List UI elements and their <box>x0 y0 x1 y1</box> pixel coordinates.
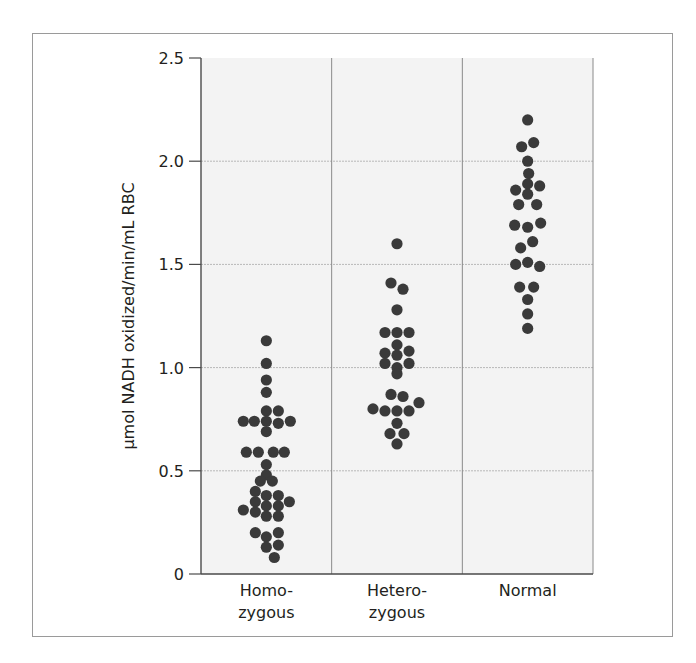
data-point <box>261 511 272 522</box>
data-point <box>367 403 378 414</box>
data-point <box>250 486 261 497</box>
data-point <box>273 500 284 511</box>
data-point <box>391 339 402 350</box>
data-point <box>261 374 272 385</box>
data-point <box>379 348 390 359</box>
data-point <box>522 257 533 268</box>
y-tick-label: 2.0 <box>159 152 184 171</box>
dot-plot-chart: 00.51.01.52.02.5 µmol NADH oxidized/min/… <box>0 0 696 663</box>
data-point <box>379 358 390 369</box>
data-point <box>284 496 295 507</box>
data-point <box>255 476 266 487</box>
data-point <box>391 368 402 379</box>
data-point <box>261 426 272 437</box>
data-point <box>391 350 402 361</box>
data-point <box>273 511 284 522</box>
data-point <box>535 218 546 229</box>
data-point <box>250 496 261 507</box>
data-point <box>522 308 533 319</box>
category-label: Normal <box>499 581 557 600</box>
data-point <box>238 416 249 427</box>
data-point <box>261 416 272 427</box>
data-point <box>522 323 533 334</box>
y-tick-label: 1.5 <box>159 255 184 274</box>
data-point <box>269 552 280 563</box>
data-point <box>273 418 284 429</box>
y-axis-title: µmol NADH oxidized/min/mL RBC <box>119 182 138 449</box>
data-point <box>391 238 402 249</box>
data-point <box>514 282 525 293</box>
data-point <box>516 141 527 152</box>
data-point <box>384 428 395 439</box>
data-point <box>261 542 272 553</box>
data-point <box>413 397 424 408</box>
y-tick-label: 0.5 <box>159 462 184 481</box>
plot-area <box>201 58 593 574</box>
data-point <box>398 428 409 439</box>
data-point <box>510 184 521 195</box>
data-point <box>241 447 252 458</box>
data-point <box>391 418 402 429</box>
data-point <box>391 327 402 338</box>
data-point <box>522 222 533 233</box>
data-point <box>391 304 402 315</box>
category-label: Homo-zygous <box>238 581 294 622</box>
data-point <box>273 540 284 551</box>
data-point <box>509 220 520 231</box>
y-tick-label: 0 <box>174 565 184 584</box>
data-point <box>379 405 390 416</box>
data-point <box>279 447 290 458</box>
data-point <box>522 294 533 305</box>
data-point <box>261 490 272 501</box>
data-point <box>531 199 542 210</box>
data-point <box>268 447 279 458</box>
y-tick-labels: 00.51.01.52.02.5 <box>159 49 184 584</box>
data-point <box>261 358 272 369</box>
data-point <box>238 504 249 515</box>
data-point <box>534 180 545 191</box>
data-point <box>403 345 414 356</box>
data-point <box>261 531 272 542</box>
y-tick-label: 2.5 <box>159 49 184 68</box>
data-point <box>250 527 261 538</box>
data-point <box>253 447 264 458</box>
data-point <box>403 327 414 338</box>
data-point <box>522 178 533 189</box>
data-point <box>261 335 272 346</box>
data-point <box>273 527 284 538</box>
data-point <box>522 189 533 200</box>
data-point <box>267 476 278 487</box>
data-point <box>403 358 414 369</box>
data-point <box>261 387 272 398</box>
data-point <box>285 416 296 427</box>
data-point <box>250 506 261 517</box>
data-point <box>528 282 539 293</box>
category-labels: Homo-zygousHetero-zygousNormal <box>238 581 556 622</box>
data-point <box>273 405 284 416</box>
y-tick-label: 1.0 <box>159 359 184 378</box>
data-point <box>261 459 272 470</box>
data-point <box>391 405 402 416</box>
data-point <box>397 391 408 402</box>
data-point <box>249 416 260 427</box>
data-point <box>510 259 521 270</box>
data-point <box>403 405 414 416</box>
data-point <box>379 327 390 338</box>
data-point <box>522 156 533 167</box>
data-point <box>397 284 408 295</box>
data-point <box>528 137 539 148</box>
data-point <box>534 261 545 272</box>
category-label: Hetero-zygous <box>367 581 427 622</box>
data-point <box>385 277 396 288</box>
data-point <box>261 500 272 511</box>
data-point <box>261 405 272 416</box>
data-point <box>385 389 396 400</box>
data-point <box>522 114 533 125</box>
data-point <box>513 199 524 210</box>
data-point <box>523 168 534 179</box>
data-point <box>273 490 284 501</box>
data-point <box>527 236 538 247</box>
data-point <box>391 438 402 449</box>
data-point <box>515 242 526 253</box>
